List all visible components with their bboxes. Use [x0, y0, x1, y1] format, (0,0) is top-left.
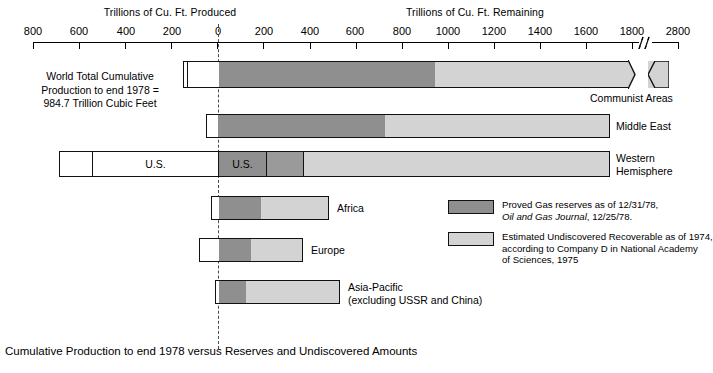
world-total-line1: World Total Cumulative: [20, 70, 180, 84]
row-label-western-hemisphere-line2: Hemisphere: [616, 165, 673, 178]
row-label-middle-east: Middle East: [616, 120, 671, 133]
world-total-annotation: World Total Cumulative Production to end…: [20, 70, 180, 111]
segment-proved-reserves: [219, 62, 435, 87]
row-label-africa: Africa: [337, 202, 364, 215]
legend-undiscovered-line3: of Sciences, 1975: [502, 254, 713, 266]
row-label-western-hemisphere-line1: Western: [616, 152, 673, 165]
bar-world-total-communist-areas[interactable]: [648, 61, 669, 88]
tick-label-400L: 400: [104, 25, 148, 37]
world-total-line2: Production to end 1978 =: [20, 84, 180, 98]
axis-tick: [310, 42, 311, 49]
legend-proved-source: Oil and Gas Journal: [502, 211, 587, 222]
segment-undiscovered: [246, 281, 339, 303]
legend-proved-line2: Oil and Gas Journal, 12/25/78.: [502, 211, 658, 223]
segment-undiscovered: [251, 239, 302, 261]
tick-label-600R: 600: [333, 25, 377, 37]
world-total-line3: 984.7 Trillion Cubic Feet: [20, 97, 180, 111]
axis-title-left: Trillions of Cu. Ft. Produced: [60, 6, 280, 18]
axis-tick: [540, 42, 541, 49]
tick-label-800R: 800: [380, 25, 424, 37]
tick-label-1400: 1400: [518, 25, 562, 37]
segment-production: [200, 239, 219, 261]
segment-proved-reserves: [219, 197, 261, 219]
row-label-europe: Europe: [311, 244, 345, 257]
segment-proved-reserves-us: U.S.: [219, 152, 267, 176]
segment-undiscovered: [385, 115, 609, 137]
bar-world-total[interactable]: [183, 61, 635, 88]
axis-tick: [494, 42, 495, 49]
segment-production-us: U.S.: [93, 152, 219, 176]
row-label-asia-pacific-line1: Asia-Pacific: [348, 281, 482, 294]
axis-break-icon: [636, 36, 654, 49]
tick-label-1000: 1000: [426, 25, 470, 37]
segment-production: [212, 197, 219, 219]
legend-text-undiscovered: Estimated Undiscovered Recoverable as of…: [502, 231, 713, 266]
tick-label-200R: 200: [242, 25, 286, 37]
segment-proved-reserves: [218, 115, 385, 137]
axis-tick: [678, 42, 679, 49]
axis-tick: [79, 42, 80, 49]
segment-proved-reserves: [219, 239, 251, 261]
axis-tick: [402, 42, 403, 49]
legend-proved-date: , 12/25/78.: [587, 211, 632, 222]
tick-label-200L: 200: [150, 25, 194, 37]
row-label-communist-areas: Communist Areas: [590, 92, 673, 105]
segment-proved-reserves: [219, 281, 246, 303]
axis-tick: [171, 42, 172, 49]
row-label-western-hemisphere: Western Hemisphere: [616, 152, 673, 177]
segment-production-rest: [188, 62, 219, 87]
legend-swatch-proved: [448, 200, 494, 214]
tick-label-1200: 1200: [472, 25, 516, 37]
axis-line-after-break: [652, 42, 679, 43]
legend-swatch-undiscovered: [448, 232, 494, 246]
axis-tick: [263, 42, 264, 49]
tick-label-2800: 2800: [656, 25, 700, 37]
tick-label-400R: 400: [288, 25, 332, 37]
segment-production: [207, 115, 218, 137]
axis-tick: [632, 42, 633, 49]
axis-line-main: [33, 42, 639, 43]
bar-world-total-break-notch: [628, 60, 642, 89]
bar-middle-east[interactable]: [206, 114, 610, 138]
segment-undiscovered: [261, 197, 328, 219]
bar-western-hemisphere[interactable]: U.S. U.S.: [59, 151, 610, 177]
legend-text-proved: Proved Gas reserves as of 12/31/78, Oil …: [502, 199, 658, 222]
legend-undiscovered-line2: according to Company D in National Acade…: [502, 243, 713, 255]
tick-label-1600: 1600: [564, 25, 608, 37]
chart-caption: Cumulative Production to end 1978 versus…: [5, 345, 417, 357]
axis-title-right: Trillions of Cu. Ft. Remaining: [330, 6, 620, 18]
axis-tick: [586, 42, 587, 49]
axis-tick: [448, 42, 449, 49]
bar-asia-pacific[interactable]: [215, 280, 340, 304]
axis-tick: [356, 42, 357, 49]
axis-tick: [33, 42, 34, 49]
legend-proved-line1: Proved Gas reserves as of 12/31/78,: [502, 199, 658, 211]
segment-production-other: [60, 152, 93, 176]
segment-proved-reserves-other: [267, 152, 304, 176]
axis-tick: [125, 42, 126, 49]
tick-label-600L: 600: [57, 25, 101, 37]
row-label-asia-pacific: Asia-Pacific (excluding USSR and China): [348, 281, 482, 306]
legend-undiscovered-line1: Estimated Undiscovered Recoverable as of…: [502, 231, 713, 243]
segment-undiscovered: [435, 62, 634, 87]
segment-undiscovered: [304, 152, 609, 176]
row-label-asia-pacific-line2: (excluding USSR and China): [348, 294, 482, 307]
bar-africa[interactable]: [211, 196, 329, 220]
bar-europe[interactable]: [199, 238, 303, 262]
tick-label-800L: 800: [11, 25, 55, 37]
